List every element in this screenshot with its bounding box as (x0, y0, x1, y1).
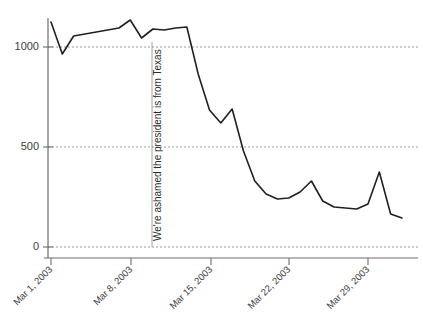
gridlines (48, 47, 418, 247)
y-tick-label-500: 500 (21, 140, 39, 152)
x-tick-label-mar8: Mar 8, 2003 (91, 264, 135, 308)
annotation-label-texas: We're ashamed the president is from Texa… (152, 49, 163, 241)
y-tick-labels: 1000 500 0 (15, 40, 39, 252)
y-tick-label-0: 0 (33, 240, 39, 252)
x-tick-label-mar22: Mar 22, 2003 (245, 264, 292, 311)
x-tick-label-mar1: Mar 1, 2003 (11, 264, 55, 308)
x-tick-marks (51, 258, 368, 265)
axes (44, 18, 418, 258)
y-tick-label-1000: 1000 (15, 40, 39, 52)
chart-canvas: 1000 500 0 Mar 1, 2003 Mar 8, 2003 Mar 1… (0, 0, 423, 328)
x-tick-labels: Mar 1, 2003 Mar 8, 2003 Mar 15, 2003 Mar… (11, 264, 372, 311)
line-chart: 1000 500 0 Mar 1, 2003 Mar 8, 2003 Mar 1… (0, 0, 423, 328)
x-tick-label-mar29: Mar 29, 2003 (324, 264, 371, 311)
x-tick-label-mar15: Mar 15, 2003 (167, 264, 214, 311)
data-series-line (51, 20, 402, 218)
